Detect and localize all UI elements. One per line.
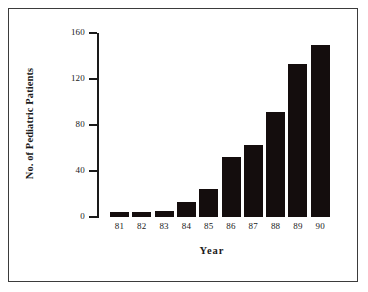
bar (288, 64, 307, 217)
x-axis-tick-label: 82 (132, 222, 151, 231)
y-axis-tick-label-wrap: 160 (42, 28, 85, 38)
x-axis-tick-label: 90 (311, 222, 330, 231)
y-axis-title: No. of Pediatric Patients (24, 49, 35, 199)
x-axis-tick-label: 83 (155, 222, 174, 231)
x-axis-tick-label: 85 (199, 222, 218, 231)
x-axis-tick-label: 88 (266, 222, 285, 231)
y-axis-tick-label: 80 (45, 120, 85, 129)
bar (110, 212, 129, 217)
x-axis-title: Year (97, 245, 327, 256)
figure: 04080120160 81828384858687888990 No. of … (0, 0, 368, 292)
bar (311, 45, 330, 218)
y-axis-tick-label: 0 (45, 212, 85, 221)
plot-area: 04080120160 81828384858687888990 No. of … (0, 0, 368, 292)
y-axis-tick (89, 216, 97, 218)
x-axis-tick-label: 86 (222, 222, 241, 231)
y-axis-tick (89, 124, 97, 126)
y-axis-tick-label-wrap: 80 (42, 120, 85, 130)
bar (266, 112, 285, 217)
bar (177, 202, 196, 217)
y-axis-tick-label: 40 (45, 166, 85, 175)
y-axis-tick-label-wrap: 40 (42, 166, 85, 176)
x-axis-tick-label: 87 (244, 222, 263, 231)
y-axis-line (97, 33, 99, 218)
y-axis-tick-label-wrap: 120 (42, 74, 85, 84)
bar (199, 189, 218, 217)
y-axis-tick (89, 170, 97, 172)
x-axis-tick-label: 84 (177, 222, 196, 231)
x-axis-tick-label: 89 (288, 222, 307, 231)
y-axis-tick-label: 120 (45, 74, 85, 83)
y-axis-tick-label: 160 (45, 28, 85, 37)
y-axis-tick-label-wrap: 0 (42, 212, 85, 222)
bar (244, 145, 263, 217)
y-axis-tick (89, 78, 97, 80)
bar (222, 157, 241, 217)
bar (132, 212, 151, 217)
y-axis-tick (89, 32, 97, 34)
bar (155, 211, 174, 217)
x-axis-tick-label: 81 (110, 222, 129, 231)
